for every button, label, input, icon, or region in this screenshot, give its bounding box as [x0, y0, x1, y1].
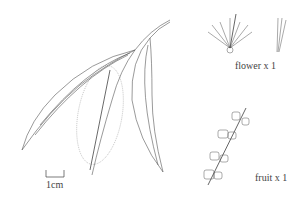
- flower-detail: [208, 14, 286, 53]
- fruit-detail: [204, 108, 249, 185]
- flower-label: flower x 1: [235, 60, 276, 71]
- botanical-illustration: flower x 1 fruit x 1 1cm: [0, 0, 305, 205]
- flower-spike: [70, 62, 131, 170]
- fruit-label: fruit x 1: [255, 172, 287, 183]
- scale-label: 1cm: [46, 179, 63, 190]
- scale-bar: [46, 170, 64, 177]
